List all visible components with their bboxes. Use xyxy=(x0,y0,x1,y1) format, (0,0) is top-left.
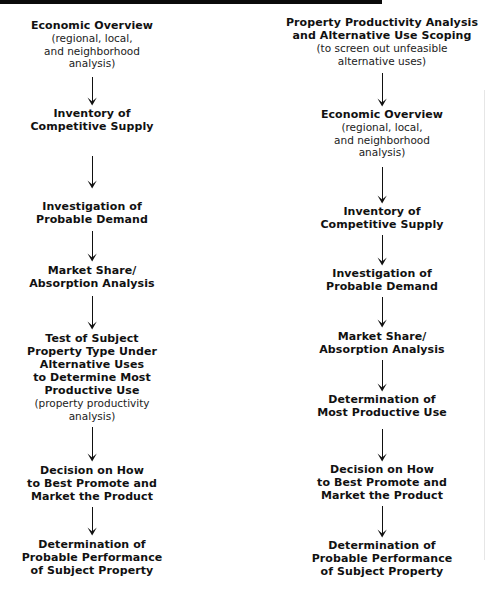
step-title-line: Market Share/ xyxy=(0,264,212,277)
step-note-line: and neighborhood xyxy=(0,45,212,58)
flowchart-step: Market Share/Absorption Analysis xyxy=(0,264,212,290)
down-arrow-icon xyxy=(377,73,387,107)
step-title-line: Property Type Under xyxy=(0,345,212,358)
down-arrow-icon xyxy=(87,231,97,262)
step-title-line: of Subject Property xyxy=(0,564,212,577)
step-note-line: (regional, local, xyxy=(0,32,212,45)
step-title-line: Property Productivity Analysis xyxy=(262,16,486,29)
flowchart-step: Investigation ofProbable Demand xyxy=(0,200,212,226)
step-title-line: Test of Subject xyxy=(0,332,212,345)
down-arrow-icon xyxy=(377,506,387,538)
flowchart-step: Decision on Howto Best Promote andMarket… xyxy=(262,463,486,502)
down-arrow-icon xyxy=(87,427,97,462)
step-note-line: analysis) xyxy=(262,146,486,159)
step-title-line: to Determine Most xyxy=(0,371,212,384)
flowchart-step: Economic Overview(regional, local,and ne… xyxy=(0,19,212,70)
flowchart-step: Investigation ofProbable Demand xyxy=(262,267,486,293)
step-title-line: Investigation of xyxy=(0,200,212,213)
step-title-line: Determination of xyxy=(262,393,486,406)
step-note-line: analysis) xyxy=(0,410,212,423)
step-note-line: and neighborhood xyxy=(262,134,486,147)
step-title-line: Decision on How xyxy=(0,464,212,477)
step-title-line: to Best Promote and xyxy=(0,477,212,490)
down-arrow-icon xyxy=(87,296,97,330)
step-title-line: Economic Overview xyxy=(0,19,212,32)
step-title-line: Inventory of xyxy=(262,205,486,218)
down-arrow-icon xyxy=(87,77,97,106)
step-note-line: alternative uses) xyxy=(262,55,486,68)
step-title-line: Investigation of xyxy=(262,267,486,280)
step-title-line: Market Share/ xyxy=(262,330,486,343)
step-title-line: Competitive Supply xyxy=(0,120,212,133)
flowchart-step: Market Share/Absorption Analysis xyxy=(262,330,486,356)
down-arrow-icon xyxy=(87,507,97,536)
flowchart-step: Determination ofProbable Performanceof S… xyxy=(262,539,486,578)
step-title-line: Probable Demand xyxy=(0,213,212,226)
step-title-line: Alternative Uses xyxy=(0,358,212,371)
step-note-line: (to screen out unfeasible xyxy=(262,42,486,55)
step-title-line: Absorption Analysis xyxy=(262,343,486,356)
down-arrow-icon xyxy=(377,235,387,266)
down-arrow-icon xyxy=(377,429,387,462)
step-title-line: Probable Performance xyxy=(0,551,212,564)
step-title-line: Inventory of xyxy=(0,107,212,120)
down-arrow-icon xyxy=(377,167,387,204)
flowchart-step: Determination ofProbable Performanceof S… xyxy=(0,538,212,577)
step-title-line: Market the Product xyxy=(0,490,212,503)
step-title-line: Most Productive Use xyxy=(262,406,486,419)
step-title-line: Probable Performance xyxy=(262,552,486,565)
flowchart-step: Test of SubjectProperty Type UnderAltern… xyxy=(0,332,212,422)
flowchart-step: Decision on Howto Best Promote andMarket… xyxy=(0,464,212,503)
flowchart-step: Property Productivity Analysisand Altern… xyxy=(262,16,486,67)
step-title-line: Competitive Supply xyxy=(262,218,486,231)
step-title-line: Determination of xyxy=(262,539,486,552)
step-title-line: of Subject Property xyxy=(262,565,486,578)
step-title-line: Decision on How xyxy=(262,463,486,476)
step-title-line: Absorption Analysis xyxy=(0,277,212,290)
step-title-line: Market the Product xyxy=(262,489,486,502)
down-arrow-icon xyxy=(377,297,387,328)
step-title-line: Productive Use xyxy=(0,384,212,397)
down-arrow-icon xyxy=(377,360,387,392)
step-title-line: Economic Overview xyxy=(262,108,486,121)
step-note-line: (regional, local, xyxy=(262,121,486,134)
flowchart-step: Inventory ofCompetitive Supply xyxy=(0,107,212,133)
step-title-line: Determination of xyxy=(0,538,212,551)
flowchart-step: Determination ofMost Productive Use xyxy=(262,393,486,419)
flowchart-step: Inventory ofCompetitive Supply xyxy=(262,205,486,231)
flowchart-step: Economic Overview(regional, local,and ne… xyxy=(262,108,486,159)
step-title-line: and Alternative Use Scoping xyxy=(262,29,486,42)
step-title-line: Probable Demand xyxy=(262,280,486,293)
step-note-line: analysis) xyxy=(0,57,212,70)
step-title-line: to Best Promote and xyxy=(262,476,486,489)
header-bar xyxy=(0,0,382,4)
step-note-line: (property productivity xyxy=(0,397,212,410)
down-arrow-icon xyxy=(87,156,97,189)
